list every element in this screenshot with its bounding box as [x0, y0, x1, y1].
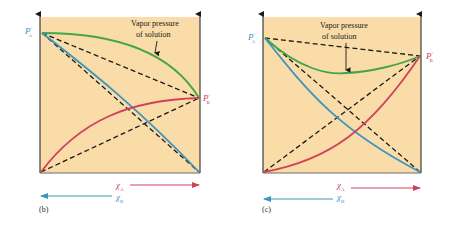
caption-c: (c) — [262, 205, 271, 214]
vapor-pressure-diagrams: Vapor pressure of solution P°A P°B χA χB… — [0, 0, 454, 237]
xa-label-c: χA — [336, 180, 345, 192]
panel-b: Vapor pressure of solution P°A P°B χA χB… — [24, 14, 211, 214]
annotation-c-line1: Vapor pressure — [320, 21, 368, 30]
pb-label-c: P°B — [425, 51, 434, 63]
annotation-c-line2: of solution — [322, 32, 356, 41]
xb-label-b: χB — [115, 192, 124, 204]
pb-label-b: P°B — [202, 93, 211, 105]
panel-c: Vapor pressure of solution P°A P°B χA χB… — [247, 14, 434, 214]
pa-label-b: P°A — [24, 26, 33, 38]
xa-label-b: χA — [115, 180, 124, 192]
pa-label-c: P°A — [247, 32, 256, 44]
annotation-b-line1: Vapor pressure — [131, 19, 179, 28]
xb-label-c: χB — [336, 192, 345, 204]
annotation-b-line2: of solution — [136, 30, 170, 39]
caption-b: (b) — [39, 205, 49, 214]
